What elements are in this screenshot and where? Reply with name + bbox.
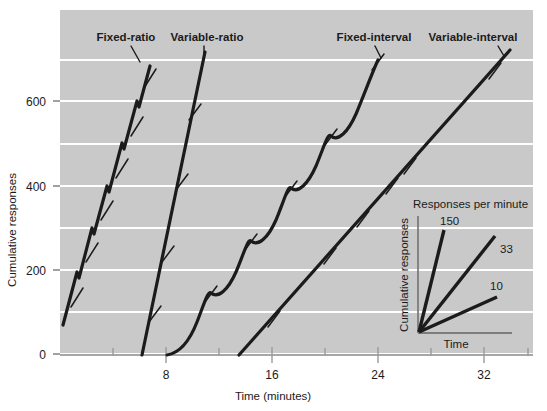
inset-title: Responses per minute xyxy=(413,198,528,210)
inset-x-axis-label: Time xyxy=(443,338,468,350)
inset-label-150: 150 xyxy=(440,215,459,227)
inset-label-33: 33 xyxy=(500,243,513,255)
x-tick-label-32: 32 xyxy=(477,368,491,382)
series-label-variable-ratio: Variable-ratio xyxy=(171,31,244,43)
x-tick-label-8: 8 xyxy=(163,368,170,382)
x-tick-label-16: 16 xyxy=(265,368,279,382)
y-tick-label-400: 400 xyxy=(26,180,46,194)
series-label-fixed-ratio: Fixed-ratio xyxy=(97,31,156,43)
x-axis-label: Time (minutes) xyxy=(235,390,311,402)
cumulative-record-chart: 600 400 200 0 8 16 24 32 Time (minutes) … xyxy=(0,0,547,411)
series-label-variable-interval: Variable-interval xyxy=(429,31,518,43)
y-axis-label: Cumulative responses xyxy=(6,173,18,287)
y-tick-label-200: 200 xyxy=(26,264,46,278)
x-tick-label-24: 24 xyxy=(371,368,385,382)
inset-label-10: 10 xyxy=(490,280,503,292)
y-tick-label-600: 600 xyxy=(26,95,46,109)
y-axis-ticks xyxy=(53,101,60,354)
series-label-fixed-interval: Fixed-interval xyxy=(337,31,412,43)
y-tick-label-0: 0 xyxy=(39,348,46,362)
chart-svg: 600 400 200 0 8 16 24 32 Time (minutes) … xyxy=(0,0,547,411)
inset-y-axis-label: Cumulative responses xyxy=(398,218,410,332)
